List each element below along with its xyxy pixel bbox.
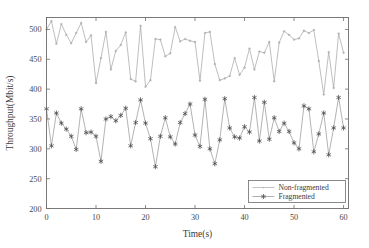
data-point-marker	[273, 81, 275, 83]
data-point-marker	[293, 39, 295, 41]
data-point-marker	[99, 159, 104, 164]
data-point-marker	[148, 136, 153, 141]
data-point-marker	[143, 121, 148, 126]
data-point-marker	[51, 20, 53, 22]
data-point-marker	[65, 34, 67, 36]
data-point-marker	[307, 106, 312, 111]
data-point-marker	[153, 164, 158, 169]
data-point-marker	[224, 78, 226, 80]
data-point-marker	[277, 129, 282, 134]
data-point-marker	[115, 50, 117, 52]
y-tick-label: 300	[29, 145, 41, 154]
data-point-marker	[252, 95, 257, 100]
data-point-marker	[214, 63, 216, 65]
data-point-marker	[163, 115, 168, 120]
data-point-marker	[209, 31, 211, 33]
y-axis-title: Throughput(Mbit/s)	[5, 76, 16, 151]
x-axis-title: Time(s)	[183, 229, 212, 240]
x-tick-label: 30	[191, 213, 199, 222]
data-point-marker	[183, 111, 188, 116]
data-point-marker	[312, 149, 317, 154]
data-point-marker	[244, 67, 246, 69]
legend-label: Non-fragmented	[279, 183, 329, 192]
data-point-marker	[267, 137, 272, 142]
data-point-marker	[174, 26, 176, 28]
data-point-marker	[343, 52, 345, 54]
data-point-marker	[278, 42, 280, 44]
data-point-marker	[313, 29, 315, 31]
data-point-marker	[56, 43, 58, 45]
x-tick-label: 0	[44, 213, 48, 222]
data-point-marker	[287, 129, 292, 134]
data-point-marker	[333, 87, 335, 89]
data-point-marker	[130, 78, 132, 80]
data-point-marker	[133, 120, 138, 125]
data-point-marker	[140, 25, 142, 27]
data-point-marker	[303, 30, 305, 32]
data-point-marker	[128, 143, 133, 148]
data-point-marker	[80, 22, 82, 24]
series-layer	[44, 20, 346, 169]
data-point-marker	[145, 86, 147, 88]
data-point-marker	[317, 131, 322, 136]
data-point-marker	[321, 110, 326, 115]
data-point-marker	[341, 125, 346, 130]
data-point-marker	[222, 96, 227, 101]
data-point-marker	[164, 55, 166, 57]
data-point-marker	[179, 41, 181, 43]
data-point-marker	[138, 97, 143, 102]
x-tick-label: 20	[141, 213, 149, 222]
data-point-marker	[110, 69, 112, 71]
x-tick-label: 50	[290, 213, 298, 222]
y-tick-label: 400	[29, 85, 41, 94]
figure-container: 0102030405060200250300350400450500 Time(…	[0, 0, 369, 248]
data-point-marker	[328, 51, 330, 53]
y-tick-label: 250	[29, 175, 41, 184]
data-point-marker	[263, 52, 265, 54]
data-point-marker	[135, 81, 137, 83]
data-point-marker	[85, 41, 87, 43]
data-point-marker	[178, 120, 183, 125]
data-point-marker	[194, 41, 196, 43]
data-point-marker	[95, 82, 97, 84]
x-tick-label: 60	[339, 213, 347, 222]
y-tick-label: 450	[29, 55, 41, 64]
data-point-marker	[338, 33, 340, 35]
data-point-marker	[219, 79, 221, 81]
data-point-marker	[262, 100, 267, 105]
data-point-marker	[193, 132, 198, 137]
data-point-marker	[49, 143, 54, 148]
y-tick-label: 350	[29, 115, 41, 124]
chart-canvas: 0102030405060200250300350400450500 Time(…	[0, 0, 369, 248]
data-point-marker	[79, 106, 84, 111]
y-tick-label: 500	[29, 25, 41, 34]
data-point-marker	[203, 97, 208, 102]
data-point-marker	[199, 80, 201, 82]
legend-sample-marker	[263, 187, 265, 189]
data-point-marker	[204, 32, 206, 34]
data-point-marker	[268, 41, 270, 43]
data-point-marker	[308, 32, 310, 34]
data-point-marker	[70, 42, 72, 44]
series-markers-non-fragmented	[46, 20, 345, 95]
y-tick-label: 200	[29, 205, 41, 214]
data-point-marker	[155, 38, 157, 40]
data-point-marker	[298, 38, 300, 40]
data-point-marker	[218, 137, 223, 142]
series-line-non-fragmented	[47, 21, 344, 94]
data-point-marker	[257, 138, 262, 143]
data-point-marker	[254, 69, 256, 71]
data-point-marker	[75, 32, 77, 34]
data-point-marker	[302, 103, 307, 108]
axis-labels-layer: Time(s)Throughput(Mbit/s)	[5, 76, 212, 240]
data-point-marker	[331, 125, 336, 130]
data-point-marker	[184, 38, 186, 40]
data-point-marker	[229, 75, 231, 77]
data-point-marker	[54, 110, 59, 115]
chart-legend: Non-fragmentedFragmented	[249, 181, 346, 203]
data-point-marker	[104, 116, 109, 121]
data-point-marker	[288, 34, 290, 36]
data-point-marker	[61, 23, 63, 25]
data-point-marker	[208, 146, 213, 151]
data-point-marker	[100, 57, 102, 59]
